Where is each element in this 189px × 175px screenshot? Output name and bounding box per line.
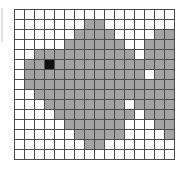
grid-cell-shaded[interactable] [155,110,165,120]
grid-cell-empty[interactable] [45,110,55,120]
grid-cell-shaded[interactable] [105,30,115,40]
grid-cell-empty[interactable] [25,130,35,140]
grid-cell-empty[interactable] [35,140,45,150]
grid-cell-shaded[interactable] [165,60,175,70]
grid-cell-empty[interactable] [15,30,25,40]
grid-cell-empty[interactable] [125,120,135,130]
grid-cell-empty[interactable] [125,20,135,30]
grid-cell-shaded[interactable] [105,40,115,50]
grid-cell-empty[interactable] [135,130,145,140]
grid-cell-shaded[interactable] [45,50,55,60]
grid-cell-empty[interactable] [135,50,145,60]
grid-cell-shaded[interactable] [65,110,75,120]
grid-cell-empty[interactable] [45,20,55,30]
grid-cell-empty[interactable] [55,130,65,140]
grid-cell-empty[interactable] [165,10,175,20]
grid-cell-empty[interactable] [75,150,85,160]
grid-cell-shaded[interactable] [135,80,145,90]
grid-cell-empty[interactable] [125,130,135,140]
grid-cell-shaded[interactable] [25,60,35,70]
grid-cell-shaded[interactable] [85,30,95,40]
grid-cell-empty[interactable] [65,130,75,140]
grid-cell-shaded[interactable] [125,50,135,60]
grid-cell-empty[interactable] [145,130,155,140]
grid-cell-shaded[interactable] [115,100,125,110]
grid-cell-empty[interactable] [55,20,65,30]
grid-cell-shaded[interactable] [85,120,95,130]
grid-cell-empty[interactable] [125,140,135,150]
grid-cell-empty[interactable] [165,150,175,160]
grid-cell-empty[interactable] [25,20,35,30]
grid-cell-empty[interactable] [105,20,115,30]
grid-cell-empty[interactable] [25,90,35,100]
grid-cell-empty[interactable] [65,150,75,160]
grid-cell-shaded[interactable] [115,50,125,60]
grid-cell-shaded[interactable] [165,50,175,60]
grid-cell-empty[interactable] [25,120,35,130]
grid-cell-empty[interactable] [15,40,25,50]
grid-cell-empty[interactable] [165,20,175,30]
grid-cell-empty[interactable] [15,130,25,140]
grid-cell-shaded[interactable] [115,40,125,50]
grid-cell-shaded[interactable] [35,90,45,100]
grid-cell-empty[interactable] [125,100,135,110]
grid-cell-empty[interactable] [15,100,25,110]
grid-cell-empty[interactable] [145,70,155,80]
grid-cell-shaded[interactable] [165,100,175,110]
grid-cell-shaded[interactable] [105,90,115,100]
grid-cell-empty[interactable] [35,100,45,110]
grid-cell-empty[interactable] [135,30,145,40]
grid-cell-shaded[interactable] [55,70,65,80]
grid-cell-empty[interactable] [35,30,45,40]
grid-cell-shaded[interactable] [135,60,145,70]
grid-cell-shaded[interactable] [95,70,105,80]
grid-cell-empty[interactable] [115,10,125,20]
grid-cell-shaded[interactable] [165,30,175,40]
grid-cell-empty[interactable] [25,100,35,110]
grid-cell-shaded[interactable] [155,70,165,80]
grid-cell-shaded[interactable] [65,100,75,110]
grid-cell-shaded[interactable] [165,70,175,80]
grid-cell-shaded[interactable] [35,50,45,60]
grid-cell-empty[interactable] [145,150,155,160]
grid-cell-shaded[interactable] [145,110,155,120]
grid-cell-empty[interactable] [15,20,25,30]
grid-cell-empty[interactable] [155,140,165,150]
grid-cell-empty[interactable] [155,20,165,30]
grid-cell-empty[interactable] [25,110,35,120]
grid-cell-shaded[interactable] [165,120,175,130]
grid-cell-empty[interactable] [65,10,75,20]
grid-cell-shaded[interactable] [75,50,85,60]
grid-cell-shaded[interactable] [65,60,75,70]
grid-cell-shaded[interactable] [145,50,155,60]
grid-cell-shaded[interactable] [75,30,85,40]
grid-cell-shaded[interactable] [85,60,95,70]
grid-cell-empty[interactable] [135,10,145,20]
grid-cell-shaded[interactable] [155,50,165,60]
grid-cell-shaded[interactable] [95,40,105,50]
grid-cell-empty[interactable] [35,40,45,50]
grid-cell-shaded[interactable] [35,80,45,90]
grid-cell-shaded[interactable] [155,40,165,50]
grid-cell-shaded[interactable] [45,70,55,80]
grid-cell-shaded[interactable] [125,80,135,90]
grid-cell-shaded[interactable] [55,90,65,100]
grid-cell-empty[interactable] [25,50,35,60]
grid-cell-shaded[interactable] [155,120,165,130]
grid-cell-shaded[interactable] [65,80,75,90]
grid-cell-shaded[interactable] [165,110,175,120]
grid-cell-shaded[interactable] [65,40,75,50]
grid-cell-shaded[interactable] [105,120,115,130]
grid-cell-shaded[interactable] [65,90,75,100]
grid-cell-empty[interactable] [55,150,65,160]
grid-cell-empty[interactable] [145,120,155,130]
grid-cell-empty[interactable] [165,140,175,150]
grid-cell-shaded[interactable] [25,80,35,90]
grid-cell-shaded[interactable] [25,70,35,80]
grid-cell-empty[interactable] [135,110,145,120]
grid-cell-empty[interactable] [15,80,25,90]
grid-cell-empty[interactable] [45,30,55,40]
grid-cell-empty[interactable] [75,140,85,150]
grid-cell-eye[interactable] [45,60,55,70]
grid-cell-shaded[interactable] [105,80,115,90]
